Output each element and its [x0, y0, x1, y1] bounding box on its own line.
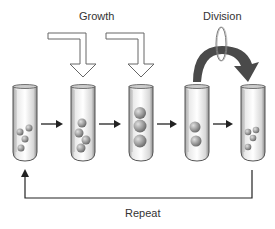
division-arrow-icon	[193, 27, 259, 82]
repeat-arrow	[21, 169, 252, 198]
growth-arrow-1	[48, 33, 96, 77]
cell-cycle-diagram	[0, 0, 275, 229]
growth-arrow-2	[106, 33, 154, 77]
tube-1	[13, 85, 37, 162]
tube-3-cells	[134, 107, 147, 148]
tube-5	[241, 85, 265, 162]
